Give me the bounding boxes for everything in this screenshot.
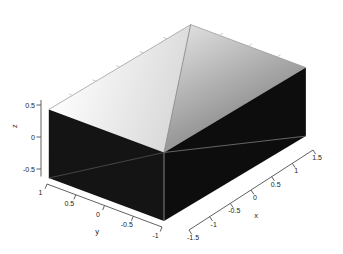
z-tick-label: -0.5 <box>23 166 35 173</box>
x-tick-label: -1 <box>211 221 217 228</box>
y-tick <box>74 195 76 200</box>
z-axis: 0.50-0.5 <box>23 100 41 177</box>
y-tick <box>131 216 133 221</box>
x-axis-label: x <box>254 211 258 220</box>
y-axis-label: y <box>95 227 99 236</box>
x-back-tick <box>140 52 144 53</box>
x-tick-label: 0 <box>253 194 257 201</box>
surface-faces <box>49 25 306 221</box>
x-tick-label: 1 <box>294 167 298 174</box>
y-tick-label: 0.5 <box>64 200 74 207</box>
z-tick-label: 0.5 <box>25 102 35 109</box>
y-tick <box>160 227 162 232</box>
x-tick-label: 0.5 <box>271 181 281 188</box>
x-tick-label: -1.5 <box>187 234 199 241</box>
y-tick-label: 1 <box>39 189 43 196</box>
x-back-tick <box>116 66 120 67</box>
z-axis-label: z <box>10 124 19 128</box>
3d-box-surface-plot: -1.5-1-0.500.511.5 10.50-0.5-1 0.50-0.5 … <box>0 0 343 254</box>
x-tick-label: -0.5 <box>228 207 240 214</box>
y-tick-label: -1 <box>152 232 158 239</box>
x-back-tick <box>92 80 96 81</box>
y-back-tick <box>248 44 251 46</box>
x-back-tick <box>163 37 167 38</box>
z-tick-label: 0 <box>31 134 35 141</box>
y-tick-label: -0.5 <box>121 221 133 228</box>
x-tick-label: 1.5 <box>312 154 322 161</box>
y-tick <box>45 184 47 189</box>
y-back-tick <box>277 55 280 57</box>
y-tick-label: 0 <box>96 211 100 218</box>
figure-canvas: -1.5-1-0.500.511.5 10.50-0.5-1 0.50-0.5 … <box>0 0 343 254</box>
y-tick <box>103 206 105 211</box>
x-back-tick <box>69 94 73 95</box>
y-back-tick <box>220 33 223 35</box>
